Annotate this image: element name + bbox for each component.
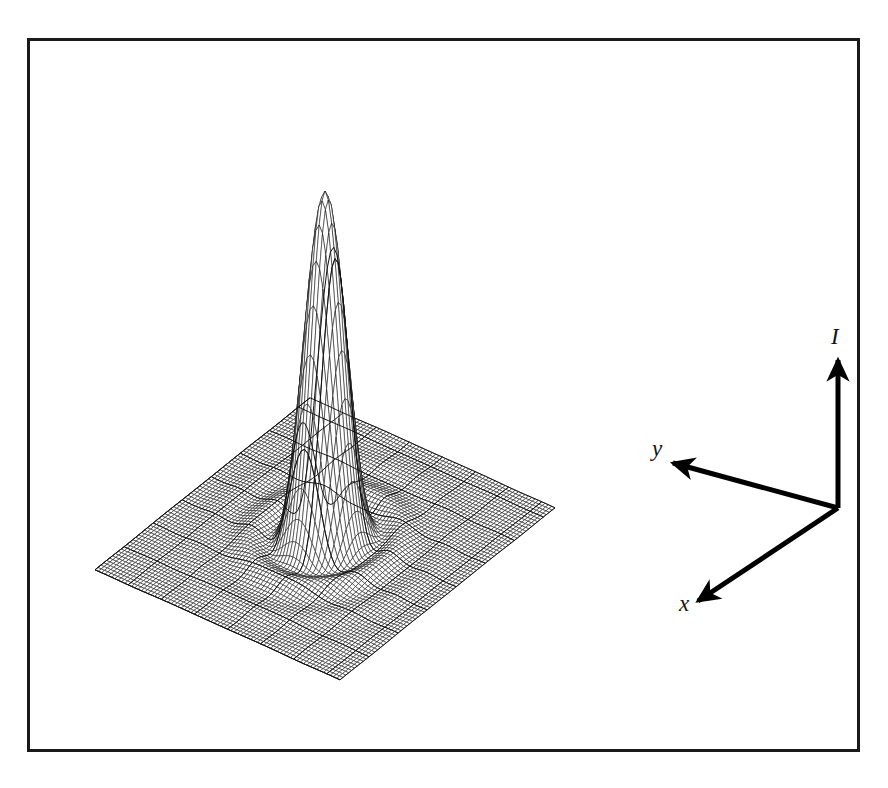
figure-root: I y x bbox=[0, 0, 888, 788]
axis-label-intensity: I bbox=[831, 325, 839, 348]
axis-arrow-y bbox=[673, 463, 838, 508]
axis-arrows bbox=[673, 360, 838, 601]
surface-mesh bbox=[95, 191, 555, 680]
axis-arrow-x bbox=[698, 508, 838, 601]
axis-label-y: y bbox=[652, 437, 662, 460]
surface-plot-canvas bbox=[0, 0, 888, 788]
axis-label-x: x bbox=[679, 592, 689, 615]
